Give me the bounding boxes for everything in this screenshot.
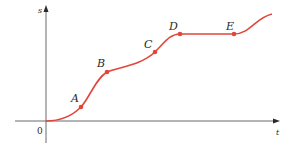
point-b <box>105 70 110 75</box>
x-axis-label: t <box>276 128 280 137</box>
point-c <box>153 50 158 55</box>
point-a <box>79 105 84 110</box>
point-b-label: B <box>96 57 105 70</box>
position-curve <box>46 14 272 121</box>
origin-label: 0 <box>37 126 43 136</box>
y-axis-label: s <box>38 6 42 15</box>
point-c-label: C <box>144 38 153 51</box>
point-e-label: E <box>225 20 234 33</box>
y-axis-arrow-icon <box>44 5 49 12</box>
point-d-label: D <box>168 20 178 33</box>
position-time-chart: s t 0 A B C D E <box>0 0 283 151</box>
x-axis-arrow-icon <box>273 119 280 124</box>
point-a-label: A <box>70 92 79 105</box>
point-d <box>178 32 183 37</box>
